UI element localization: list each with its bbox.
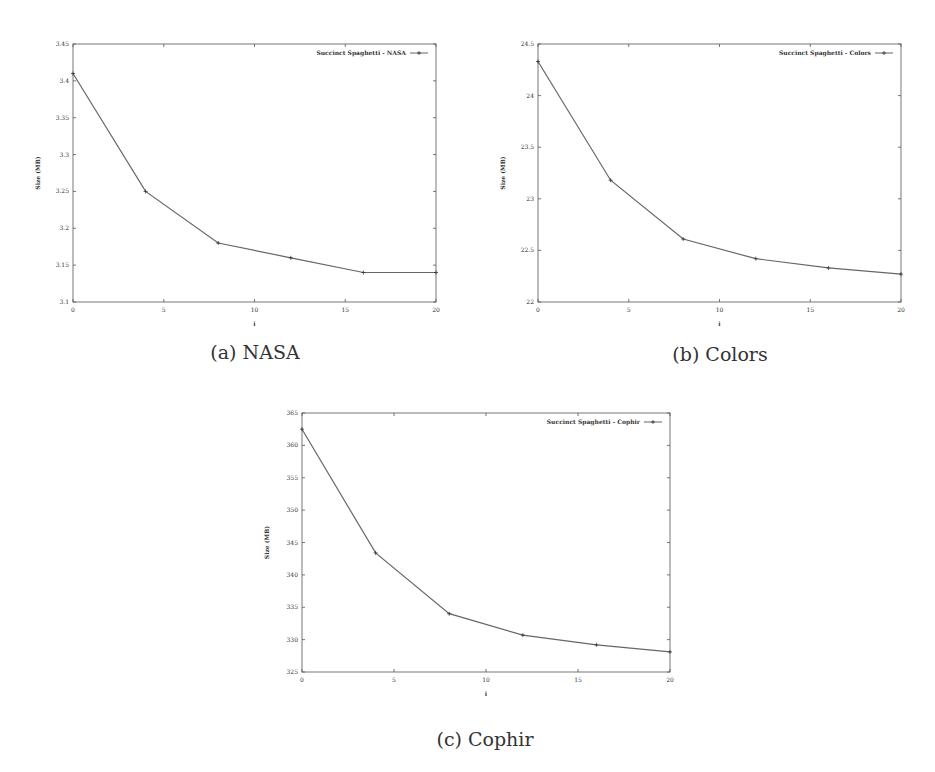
- series-line: [302, 429, 670, 652]
- plot-cophir: 32533033534034535035536036505101520iSize…: [0, 0, 935, 772]
- y-tick-label: 330: [287, 636, 299, 643]
- y-tick-label: 345: [287, 539, 299, 546]
- y-axis-label: Size (MB): [263, 526, 270, 559]
- y-tick-label: 360: [287, 441, 299, 448]
- plot-frame: [302, 413, 670, 672]
- x-tick-label: 15: [574, 676, 582, 683]
- x-tick-label: 20: [666, 676, 674, 683]
- y-tick-label: 355: [287, 474, 299, 481]
- data-point-marker: [594, 643, 598, 647]
- legend-marker: [651, 420, 655, 424]
- x-axis-label: i: [485, 690, 488, 697]
- legend-label: Succinct Spaghetti - Cophir: [547, 418, 641, 426]
- y-tick-label: 365: [287, 409, 299, 416]
- data-point-marker: [521, 633, 525, 637]
- x-tick-label: 10: [482, 676, 490, 683]
- x-tick-label: 0: [300, 676, 304, 683]
- y-tick-label: 350: [287, 506, 299, 513]
- y-tick-label: 325: [287, 668, 299, 675]
- x-tick-label: 5: [392, 676, 396, 683]
- y-tick-label: 340: [287, 571, 299, 578]
- y-tick-label: 335: [287, 603, 299, 610]
- caption-cophir: (c) Cophir: [436, 728, 533, 750]
- data-point-marker: [668, 650, 672, 654]
